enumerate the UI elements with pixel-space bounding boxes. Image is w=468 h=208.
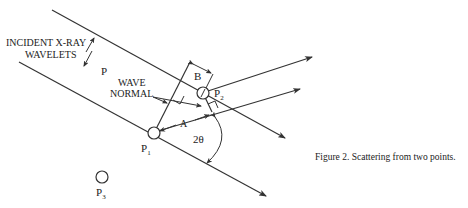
label-incident-line1: INCIDENT X-RAY — [6, 37, 86, 48]
wave-normal-pointers — [153, 97, 201, 106]
label-a: A — [180, 118, 188, 129]
point-p1 — [148, 127, 160, 139]
figure-caption: Figure 2. Scattering from two points. — [315, 152, 456, 162]
label-wave-normal-line1: WAVE — [118, 77, 146, 88]
label-wave-normal-line2: NORMAL — [110, 88, 153, 99]
label-p: P — [101, 65, 107, 77]
label-incident-line2: WAVELETS — [25, 49, 76, 60]
label-p3: P3 — [96, 186, 106, 201]
label-angle-2theta: 2θ — [193, 133, 204, 145]
point-p2 — [197, 87, 209, 99]
scattered-ray-p2 — [208, 57, 312, 91]
label-p1: P1 — [141, 142, 151, 157]
label-b: B — [194, 70, 201, 82]
incident-ray-upper — [52, 10, 285, 138]
scattering-diagram: INCIDENT X-RAY WAVELETS P WAVE NORMAL B … — [0, 0, 468, 208]
angle-arc-2theta — [207, 117, 222, 163]
point-p3 — [96, 171, 108, 183]
